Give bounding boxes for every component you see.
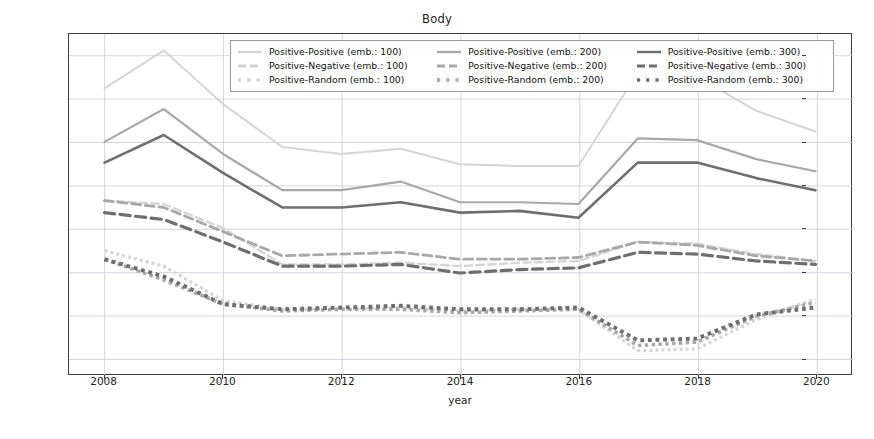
legend-label: Positive-Negative (emb.: 300): [668, 59, 807, 72]
legend-label: Positive-Random (emb.: 100): [269, 73, 404, 86]
legend-swatch-dashed-icon: [237, 61, 263, 71]
legend-label: Positive-Random (emb.: 200): [468, 73, 603, 86]
legend-label: Positive-Positive (emb.: 200): [468, 45, 601, 58]
series-line: [105, 135, 816, 218]
legend-entry: Positive-Positive (emb.: 300): [636, 45, 827, 58]
x-axis-title: year: [68, 394, 852, 406]
chart-figure: Body −0.0250.0000.0250.0500.0750.1000.12…: [0, 0, 874, 439]
x-tick-mark: [579, 375, 580, 379]
legend-label: Positive-Negative (emb.: 200): [468, 59, 607, 72]
legend-entry: Positive-Random (emb.: 100): [237, 73, 428, 86]
x-tick-mark: [816, 375, 817, 379]
x-tick-mark: [341, 375, 342, 379]
y-tick-mark: [802, 359, 806, 360]
x-tick-mark: [460, 375, 461, 379]
legend-entry: Positive-Negative (emb.: 100): [237, 59, 428, 72]
legend-label: Positive-Negative (emb.: 100): [269, 59, 408, 72]
legend-entry: Positive-Negative (emb.: 300): [636, 59, 827, 72]
legend-label: Positive-Random (emb.: 300): [668, 73, 803, 86]
legend-swatch-dashed-icon: [636, 61, 662, 71]
legend-label: Positive-Positive (emb.: 300): [668, 45, 801, 58]
legend-label: Positive-Positive (emb.: 100): [269, 45, 402, 58]
legend-entry: Positive-Negative (emb.: 200): [436, 59, 627, 72]
y-tick-mark: [802, 228, 806, 229]
x-tick-mark: [104, 375, 105, 379]
legend-swatch-solid-icon: [636, 47, 662, 57]
series-line: [105, 213, 816, 273]
x-tick-mark: [698, 375, 699, 379]
series-line: [105, 201, 816, 261]
series-line: [105, 109, 816, 204]
y-tick-mark: [802, 272, 806, 273]
y-tick-mark: [802, 98, 806, 99]
legend-swatch-solid-icon: [237, 47, 263, 57]
legend-entry: Positive-Positive (emb.: 100): [237, 45, 428, 58]
legend-swatch-solid-icon: [436, 47, 462, 57]
legend-swatch-dotted-icon: [237, 75, 263, 85]
y-tick-mark: [802, 185, 806, 186]
y-tick-mark: [802, 315, 806, 316]
legend-entry: Positive-Random (emb.: 300): [636, 73, 827, 86]
legend-swatch-dotted-icon: [636, 75, 662, 85]
y-tick-mark: [802, 55, 806, 56]
legend-swatch-dotted-icon: [436, 75, 462, 85]
legend-swatch-dashed-icon: [436, 61, 462, 71]
series-line: [105, 259, 816, 340]
chart-title: Body: [0, 12, 874, 26]
x-tick-mark: [222, 375, 223, 379]
legend-entry: Positive-Random (emb.: 200): [436, 73, 627, 86]
y-tick-mark: [802, 142, 806, 143]
legend-entry: Positive-Positive (emb.: 200): [436, 45, 627, 58]
chart-legend: Positive-Positive (emb.: 100)Positive-Ne…: [230, 40, 834, 92]
